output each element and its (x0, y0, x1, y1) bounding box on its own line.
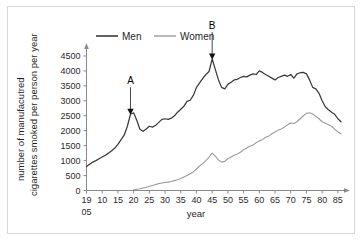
x-tick-label: 50 (223, 195, 233, 205)
legend-label-women: Women (180, 31, 214, 42)
y-tick-label: 500 (65, 171, 80, 181)
chart-legend: Men Women (96, 31, 214, 42)
x-tick-label: 70 (286, 195, 296, 205)
x-axis-tick-labels: 190510152025303540455055606570758085 (81, 195, 342, 217)
x-tick-label: 75 (301, 195, 311, 205)
x-tick-label: 30 (160, 195, 170, 205)
x-tick-label: 55 (239, 195, 249, 205)
y-tick-label: 2000 (60, 126, 80, 136)
x-tick-label: 15 (113, 195, 123, 205)
annotation-label-b: B (209, 20, 216, 31)
x-tick-label: 20 (129, 195, 139, 205)
y-tick-label: 3500 (60, 81, 80, 91)
x-tick-label: 35 (176, 195, 186, 205)
x-axis-title: year (187, 208, 205, 219)
x-tick-label-year: 05 (81, 207, 91, 217)
figure-container: 050010001500200025003000350040004500 190… (0, 0, 363, 245)
y-axis: 050010001500200025003000350040004500 (60, 43, 88, 196)
y-tick-label: 1000 (60, 156, 80, 166)
series-group (87, 59, 342, 190)
x-tick-label: 10 (97, 195, 107, 205)
x-tick-label: 85 (333, 195, 343, 205)
x-tick-label: 45 (207, 195, 217, 205)
y-tick-label: 2500 (60, 111, 80, 121)
y-tick-label: 1500 (60, 141, 80, 151)
annotation-marker-b (209, 53, 215, 59)
x-axis-arrow (344, 188, 350, 193)
y-axis-title-line2: cigarettes smoked per person per year (28, 33, 39, 196)
x-tick-label-century: 19 (81, 195, 91, 205)
series-line-women (134, 113, 341, 190)
x-tick-label: 80 (317, 195, 327, 205)
legend-label-men: Men (122, 31, 141, 42)
chart-canvas: 050010001500200025003000350040004500 190… (0, 0, 363, 245)
x-tick-label: 60 (254, 195, 264, 205)
y-tick-label: 0 (75, 186, 80, 196)
y-axis-title-line1: number of manufacutred (15, 77, 26, 181)
y-axis-arrow (84, 43, 89, 49)
x-tick-label: 25 (144, 195, 154, 205)
series-line-men (87, 59, 342, 167)
x-axis: 190510152025303540455055606570758085 (81, 188, 350, 216)
y-tick-label: 3000 (60, 96, 80, 106)
y-axis-tick-labels: 050010001500200025003000350040004500 (60, 51, 80, 196)
x-tick-label: 65 (270, 195, 280, 205)
annotation-label-a: A (127, 75, 134, 86)
y-tick-label: 4000 (60, 66, 80, 76)
x-tick-label: 40 (191, 195, 201, 205)
y-tick-label: 4500 (60, 51, 80, 61)
